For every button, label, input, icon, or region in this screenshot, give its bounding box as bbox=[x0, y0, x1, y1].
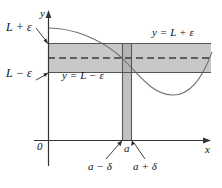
label-y-axis: y bbox=[40, 8, 45, 19]
label-lower-bound-line: y = L − ε bbox=[62, 70, 104, 81]
label-origin: 0 bbox=[37, 141, 43, 152]
label-a-plus-delta: a + δ bbox=[133, 161, 157, 172]
label-upper-bound-line: y = L + ε bbox=[152, 27, 194, 38]
label-a-minus-delta: a − δ bbox=[88, 161, 112, 172]
eps-lower-leader-arrowhead bbox=[43, 72, 48, 77]
eps-upper-leader-arrowhead bbox=[44, 39, 49, 45]
a-plus-delta-leader-arrowhead bbox=[131, 141, 135, 146]
y-axis-arrowhead bbox=[46, 10, 52, 18]
label-point-a: a bbox=[124, 143, 130, 154]
a-minus-delta-leader-line bbox=[106, 143, 120, 159]
label-epsilon-upper: L + ε bbox=[6, 21, 32, 33]
limit-epsilon-delta-figure: L + ε L − ε y = L + ε y = L − ε 0 a a − … bbox=[0, 0, 222, 188]
a-plus-delta-leader-line bbox=[134, 143, 145, 159]
label-x-axis: x bbox=[205, 144, 210, 155]
label-epsilon-lower: L − ε bbox=[6, 67, 32, 79]
